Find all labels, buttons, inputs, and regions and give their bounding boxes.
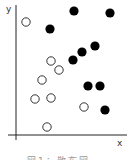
filled-point [77,47,86,56]
figure-caption: 図1：散布図 [27,154,122,160]
filled-point [83,81,92,90]
filled-point [95,81,104,90]
filled-point [100,105,109,114]
open-point [31,95,39,103]
y-axis-label: y [6,5,11,14]
filled-point [105,8,114,17]
scatter-plot [0,0,132,160]
filled-point [90,41,99,50]
filled-point [69,6,78,15]
open-point [47,57,55,65]
data-points [22,6,115,131]
open-point [55,66,63,74]
open-point [47,94,55,102]
x-axis-label: x [117,139,122,148]
open-point [80,103,88,111]
filled-point [45,24,54,33]
open-point [38,76,46,84]
open-point [43,123,51,131]
open-point [22,18,30,26]
filled-point [68,55,77,64]
